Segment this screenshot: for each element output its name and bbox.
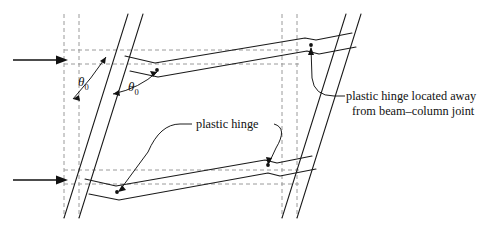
theta-subscript-left: 0 bbox=[84, 82, 88, 92]
left-column-right-edge bbox=[79, 14, 143, 218]
plastic-hinge-label: plastic hinge bbox=[196, 117, 259, 132]
lateral-load-arrows bbox=[13, 56, 68, 185]
theta-subscript-right: 0 bbox=[134, 87, 138, 97]
lower-load-arrow-head bbox=[56, 176, 68, 185]
plastic-hinge-dot-upper-right bbox=[309, 43, 313, 47]
upper-load-arrow-head bbox=[56, 56, 68, 65]
left-column-left-edge bbox=[64, 14, 128, 218]
plastic-hinge-dot-lower-left bbox=[115, 190, 119, 194]
right-column-left-edge bbox=[282, 14, 346, 218]
angle-arc-right-head-left bbox=[113, 90, 120, 96]
plastic-hinge-dot-upper-left bbox=[155, 68, 159, 72]
angle-arc-left-head-top bbox=[100, 57, 106, 64]
plastic-hinge-away-label-line2: from beam–column joint bbox=[346, 104, 476, 119]
leader-hinge-mid-right bbox=[269, 124, 282, 163]
structural-frame-diagram: θ0 θ0 plastic hinge plastic hinge locate… bbox=[0, 0, 490, 232]
leader-hinge-mid-left bbox=[120, 124, 192, 190]
upper-beam-top-flange bbox=[125, 33, 352, 63]
rotation-angle-label-left: θ0 bbox=[78, 74, 89, 92]
plastic-hinge-away-label: plastic hinge located away from beam–col… bbox=[346, 89, 476, 120]
leader-hinge-mid-left-arrowhead bbox=[118, 185, 126, 192]
plastic-hinge-away-label-line1: plastic hinge located away bbox=[346, 89, 476, 104]
rotation-angle-label-right: θ0 bbox=[128, 79, 139, 97]
lower-beam-top-flange bbox=[85, 156, 312, 186]
deformed-frame bbox=[64, 14, 361, 218]
